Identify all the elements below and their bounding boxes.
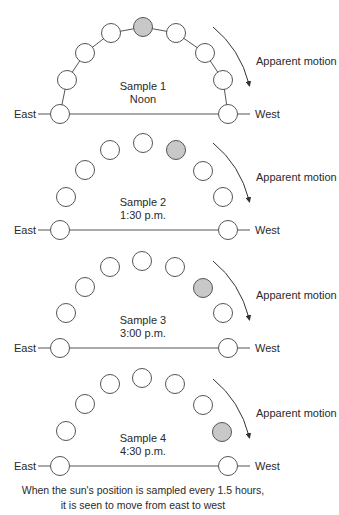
sample-title: Sample 1 (120, 80, 166, 92)
caption-line-1: When the sun's position is sampled every… (22, 484, 264, 496)
sun-position-icon (134, 18, 153, 37)
sun-position-icon (194, 279, 213, 298)
sun-slot-circle (51, 339, 70, 358)
sun-slot-circle (57, 304, 76, 323)
sample-time: Noon (130, 93, 156, 105)
sun-slot-circle (133, 369, 152, 388)
sun-slot-circle (57, 188, 76, 207)
sun-slot-circle (194, 396, 213, 415)
west-label: West (255, 460, 280, 472)
sun-slot-circle (101, 375, 120, 394)
sun-slot-circle (214, 71, 233, 90)
sun-slot-circle (76, 395, 95, 414)
sun-position-icon (167, 141, 186, 160)
east-label: East (14, 224, 36, 236)
sun-slot-circle (219, 457, 238, 476)
west-label: West (255, 342, 280, 354)
apparent-motion-label: Apparent motion (256, 407, 337, 419)
sun-slot-circle (194, 162, 213, 181)
sample-title: Sample 2 (120, 196, 166, 208)
sun-slot-circle (102, 24, 121, 43)
sun-slot-circle (101, 141, 120, 160)
sun-slot-circle (219, 105, 238, 124)
sun-slot-circle (219, 221, 238, 240)
east-label: East (14, 460, 36, 472)
apparent-motion-label: Apparent motion (256, 289, 337, 301)
sun-slot-circle (51, 105, 70, 124)
sample-time: 1:30 p.m. (120, 209, 166, 221)
caption-line-2: it is seen to move from east to west (61, 499, 226, 511)
sample-title: Sample 3 (120, 314, 166, 326)
sun-slot-circle (133, 252, 152, 271)
sun-path-diagram: EastWestSample 1NoonApparent motionEastW… (0, 0, 339, 515)
west-label: West (255, 108, 280, 120)
apparent-motion-label: Apparent motion (256, 171, 337, 183)
east-label: East (14, 108, 36, 120)
sun-slot-circle (196, 44, 215, 63)
sun-slot-circle (134, 134, 153, 153)
sun-slot-circle (51, 457, 70, 476)
sample-1: EastWestSample 1NoonApparent motion (14, 18, 337, 124)
sun-slot-circle (214, 304, 233, 323)
sun-slot-circle (101, 258, 120, 277)
sample-time: 3:00 p.m. (120, 327, 166, 339)
sample-4: EastWestSample 44:30 p.m.Apparent motion (14, 369, 337, 476)
sun-slot-circle (57, 422, 76, 441)
west-label: West (255, 224, 280, 236)
samples-layer: EastWestSample 1NoonApparent motionEastW… (14, 18, 337, 476)
apparent-motion-label: Apparent motion (256, 55, 337, 67)
sun-slot-circle (76, 161, 95, 180)
sun-slot-circle (214, 188, 233, 207)
sun-position-icon (213, 423, 232, 442)
east-label: East (14, 342, 36, 354)
sample-time: 4:30 p.m. (120, 445, 166, 457)
sample-3: EastWestSample 33:00 p.m.Apparent motion (14, 252, 337, 358)
sun-slot-circle (166, 375, 185, 394)
sun-slot-circle (58, 71, 77, 90)
sample-2: EastWestSample 21:30 p.m.Apparent motion (14, 134, 337, 240)
sun-slot-circle (76, 44, 95, 63)
sun-slot-circle (51, 221, 70, 240)
sun-slot-circle (167, 24, 186, 43)
sun-slot-circle (76, 278, 95, 297)
sun-slot-circle (166, 258, 185, 277)
sun-slot-circle (219, 339, 238, 358)
sample-title: Sample 4 (120, 432, 166, 444)
